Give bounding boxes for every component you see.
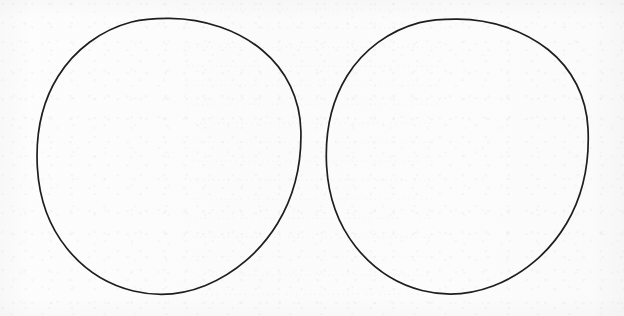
left-circle-region[interactable] xyxy=(37,18,301,294)
right-circle-region[interactable] xyxy=(326,19,588,295)
showthrough-line: · ···· ······ ··· ···· ·· ······· ···· ·… xyxy=(0,2,624,17)
scanned-page: · ···· ······ ··· ···· ·· ······· ···· ·… xyxy=(0,0,624,316)
showthrough-line: ···· ····· ·· ······· ···· ··· ······ ··… xyxy=(0,287,624,302)
showthrough-line: ···· ·· ······· ···· ····· ·· ······ ···… xyxy=(0,21,624,36)
